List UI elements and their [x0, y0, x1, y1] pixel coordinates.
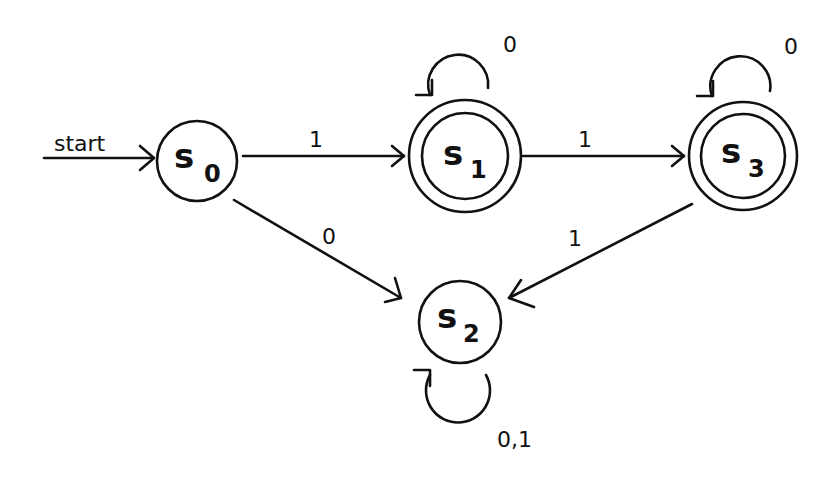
self-loop-s2 — [414, 370, 490, 422]
state-s3: s 3 — [689, 102, 797, 210]
transition-s1-s3-label: 1 — [578, 127, 592, 152]
state-s0-letter: s — [174, 136, 194, 176]
self-loop-s3 — [697, 56, 770, 96]
transition-s3-s2 — [509, 204, 692, 307]
state-s2-subscript: 2 — [463, 320, 480, 348]
state-s1: s 1 — [409, 100, 521, 212]
transition-s3-s2-label: 1 — [568, 226, 582, 251]
start-label: start — [54, 131, 106, 156]
transition-s0-s2 — [234, 200, 401, 302]
state-s1-letter: s — [443, 133, 463, 173]
transition-s1-s3 — [523, 146, 684, 166]
fsa-diagram: start s 0 s 1 s 3 s 2 1 1 0 — [0, 0, 836, 484]
transition-s0-s1-label: 1 — [309, 127, 323, 152]
self-loop-s2-label: 0,1 — [497, 427, 532, 452]
self-loop-s1 — [416, 55, 488, 95]
state-s1-subscript: 1 — [470, 156, 487, 184]
state-s0-subscript: 0 — [204, 160, 221, 188]
state-s2-letter: s — [437, 296, 457, 336]
self-loop-s1-label: 0 — [503, 32, 517, 57]
state-s3-letter: s — [721, 131, 741, 171]
state-s0: s 0 — [157, 121, 237, 201]
state-s3-subscript: 3 — [748, 155, 765, 183]
self-loop-s3-label: 0 — [784, 34, 798, 59]
state-s2: s 2 — [419, 281, 501, 363]
transition-s0-s2-label: 0 — [322, 224, 336, 249]
transition-s0-s1 — [243, 146, 404, 166]
